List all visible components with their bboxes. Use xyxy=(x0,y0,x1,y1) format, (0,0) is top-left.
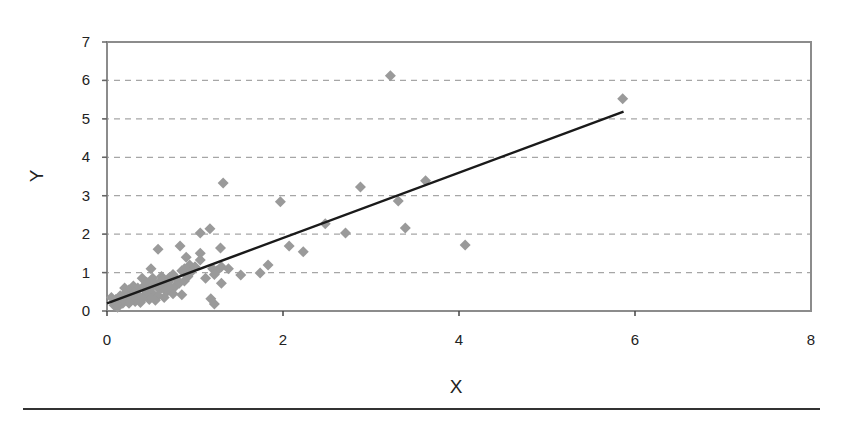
data-point-diamond xyxy=(215,242,226,253)
data-point-diamond xyxy=(275,196,286,207)
y-tick-label: 7 xyxy=(82,33,90,50)
trendline xyxy=(107,112,624,304)
x-tick-label: 4 xyxy=(455,331,463,348)
y-axis-title: Y xyxy=(26,169,47,182)
data-point-diamond xyxy=(617,93,628,104)
y-tick-label: 0 xyxy=(82,302,90,319)
data-point-diamond xyxy=(263,259,274,270)
x-tick-label: 6 xyxy=(631,331,639,348)
x-tick-label: 0 xyxy=(103,331,111,348)
data-point-diamond xyxy=(175,241,186,252)
y-tick-label: 6 xyxy=(82,71,90,88)
data-points xyxy=(106,70,628,312)
data-point-diamond xyxy=(400,222,411,233)
data-point-diamond xyxy=(385,70,396,81)
y-tick-label: 1 xyxy=(82,264,90,281)
data-point-diamond xyxy=(176,289,187,300)
data-point-diamond xyxy=(153,244,164,255)
y-tick-label: 2 xyxy=(82,225,90,242)
data-point-diamond xyxy=(218,178,229,189)
data-point-diamond xyxy=(460,239,471,250)
data-point-diamond xyxy=(255,267,266,278)
x-tick-label: 2 xyxy=(279,331,287,348)
x-axis-title: X xyxy=(450,376,463,397)
x-tick-label: 8 xyxy=(807,331,815,348)
data-point-diamond xyxy=(340,227,351,238)
y-tick-label: 5 xyxy=(82,110,90,127)
data-point-diamond xyxy=(216,278,227,289)
data-point-diamond xyxy=(204,223,215,234)
data-point-diamond xyxy=(195,227,206,238)
bottom-divider xyxy=(23,408,820,410)
y-axis-ticks: 01234567 xyxy=(82,33,107,319)
x-axis-ticks: 02468 xyxy=(103,311,815,348)
gridlines xyxy=(103,80,811,272)
data-point-diamond xyxy=(298,246,309,257)
data-point-diamond xyxy=(235,269,246,280)
y-tick-label: 4 xyxy=(82,148,90,165)
data-point-diamond xyxy=(284,241,295,252)
data-point-diamond xyxy=(355,181,366,192)
y-tick-label: 3 xyxy=(82,187,90,204)
scatter-chart: 01234567 02468 X Y xyxy=(0,0,841,439)
